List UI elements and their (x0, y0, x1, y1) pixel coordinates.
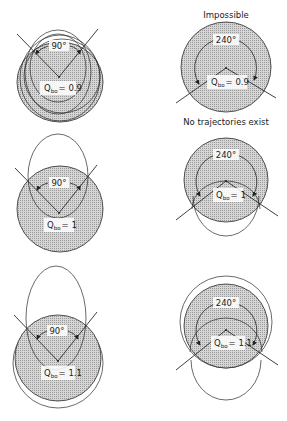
vertex-point (225, 329, 227, 331)
angle-label: 90° (49, 326, 64, 336)
panel-middle-left: 90° Qbo= 1 (15, 134, 103, 252)
panel-middle-right: 240° Qbo= 1 (176, 138, 278, 236)
angle-label: 240° (216, 298, 236, 308)
q-label: Qbo= 1.1 (44, 368, 82, 379)
vertex-point (57, 360, 59, 362)
q-label: Qbo= 1.1 (214, 338, 252, 349)
trajectory-diagram: 90° Qbo= 0.9 Impossible 240° Qbo= 0.9 No… (0, 0, 287, 421)
vertex-point (58, 76, 60, 78)
vertex-point (225, 180, 227, 182)
no-trajectories-caption: No trajectories exist (183, 117, 269, 127)
angle-label: 240° (216, 150, 236, 160)
q-label: Qbo= 0.9 (44, 83, 82, 94)
angle-label: 240° (216, 35, 236, 45)
q-label: Qbo= 1 (216, 190, 246, 201)
panel-bottom-right: 240° Qbo= 1.1 (176, 276, 278, 400)
panel-top-right: Impossible 240° Qbo= 0.9 No trajectories… (176, 10, 276, 127)
impossible-caption: Impossible (203, 10, 249, 20)
angle-label: 90° (51, 41, 66, 51)
angle-label: 90° (51, 178, 66, 188)
panel-top-left: 90° Qbo= 0.9 (17, 29, 103, 122)
vertex-point (58, 212, 60, 214)
q-label: Qbo= 0.9 (211, 77, 249, 88)
q-label: Qbo= 1 (47, 220, 77, 231)
vertex-point (225, 67, 227, 69)
panel-bottom-left: 90° Qbo= 1.1 (13, 266, 103, 408)
